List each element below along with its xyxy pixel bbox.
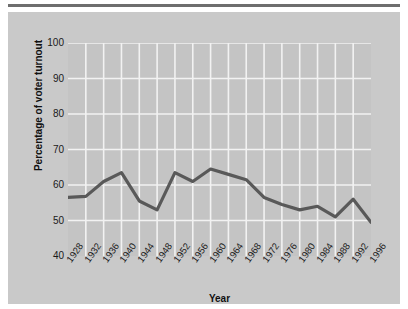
chart-screenshot: Percentage of voter turnout 100908070605… <box>0 0 408 309</box>
y-axis-tick-label: 50 <box>12 216 64 226</box>
y-axis-tick-label: 100 <box>12 38 64 48</box>
chart-panel: Percentage of voter turnout 100908070605… <box>8 12 400 304</box>
x-axis-title: Year <box>68 293 371 304</box>
y-axis-tick-label: 80 <box>12 109 64 119</box>
plot-area <box>68 43 371 256</box>
y-axis-tick-label: 90 <box>12 74 64 84</box>
y-axis-tick-label: 40 <box>12 251 64 261</box>
y-axis-tick-labels: 100908070605040 <box>8 43 64 256</box>
data-line-series <box>68 43 371 256</box>
y-axis-tick-label: 70 <box>12 145 64 155</box>
y-axis-tick-label: 60 <box>12 180 64 190</box>
top-divider-rule <box>8 4 400 7</box>
